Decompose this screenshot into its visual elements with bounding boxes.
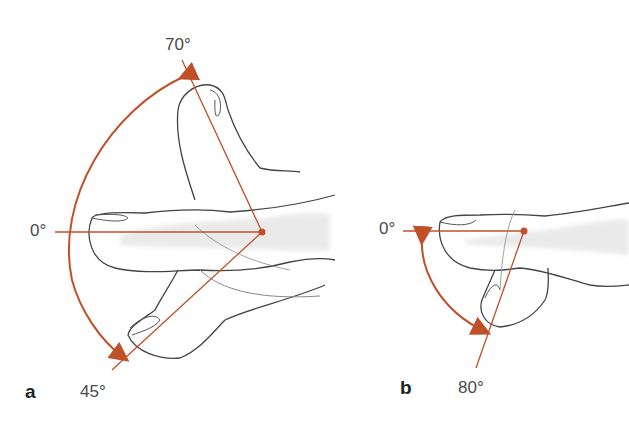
finger-flexed-outline — [128, 270, 325, 358]
panel-label-a: a — [25, 381, 36, 403]
angle-label-0-b: 0° — [379, 219, 395, 239]
diagram-canvas — [0, 0, 629, 426]
angle-label-45: 45° — [80, 382, 106, 402]
joint-pivot-dot-b — [521, 228, 528, 235]
joint-pivot-dot — [259, 229, 266, 236]
panel-a-illustration — [55, 60, 335, 370]
angle-label-80: 80° — [458, 378, 484, 398]
range-of-motion-arc-b — [422, 238, 484, 331]
finger-b-flexed-outline — [481, 268, 549, 327]
extension-70-line — [182, 60, 262, 232]
flexion-45-line — [112, 232, 262, 370]
panel-b-illustration — [403, 203, 629, 368]
angle-label-0-a: 0° — [30, 221, 46, 241]
bone-shadow-b — [465, 219, 629, 255]
flexion-80-line — [476, 231, 524, 368]
panel-label-b: b — [400, 377, 412, 399]
angle-label-70: 70° — [165, 35, 191, 55]
